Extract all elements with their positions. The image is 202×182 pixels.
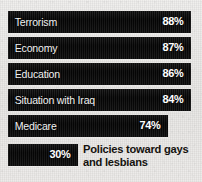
bar-value: 74% (139, 120, 168, 132)
bar-label: Economy (8, 43, 57, 54)
bar-value: 84% (162, 94, 191, 106)
bar-row: Education 86% (8, 63, 191, 85)
bar-label: Medicare (8, 121, 57, 132)
bar-row: Terrorism 88% (8, 11, 191, 33)
bar-value: 30% (49, 149, 78, 161)
bar-value: 87% (162, 42, 191, 54)
bar-row: 30% (8, 144, 78, 166)
bar-track: Situation with Iraq 84% (8, 89, 191, 111)
bar-value: 88% (162, 16, 191, 28)
bar-label: Situation with Iraq (8, 95, 95, 106)
bar-track: Economy 87% (8, 37, 191, 59)
bar-row: Medicare 74% (8, 115, 168, 137)
bar-row: Economy 87% (8, 37, 191, 59)
bar-label: Policies toward gays and lesbians (83, 143, 197, 169)
bar-label: Education (8, 69, 60, 80)
bar-track: Terrorism 88% (8, 11, 191, 33)
bar-track: Education 86% (8, 63, 191, 85)
bar-chart-figure: Terrorism 88% Economy 87% Education 86% … (0, 0, 202, 182)
bar-label: Terrorism (8, 17, 57, 28)
bar-track: 30% (8, 144, 78, 166)
bar-chart-rows: Terrorism 88% Economy 87% Education 86% … (0, 0, 202, 182)
bar-value: 86% (162, 68, 191, 80)
bar-row: Situation with Iraq 84% (8, 89, 191, 111)
bar-track: Medicare 74% (8, 115, 168, 137)
